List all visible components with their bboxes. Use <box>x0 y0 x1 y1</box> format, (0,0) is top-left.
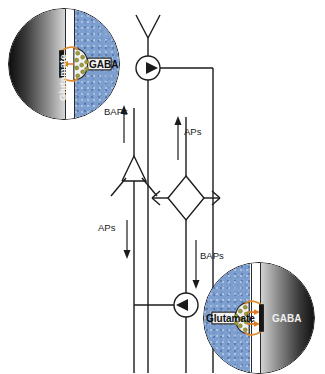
pyramidal-neuron-soma <box>122 156 146 181</box>
inset-disc-bottom-right: Glutamate GABA <box>203 262 315 374</box>
inset-label-gaba-bottom: GABA <box>272 313 301 324</box>
label-aps-left: APs <box>98 222 115 233</box>
inset-label-glutamate-bottom: Glutamate <box>206 313 255 324</box>
label-baps-bottom: BAPs <box>200 250 224 261</box>
interneuron-top-dendrite <box>136 15 160 56</box>
postsynaptic-density-bottom <box>259 304 264 332</box>
arrow-aps-left <box>124 220 131 259</box>
inset-label-gaba-top: GABA <box>89 59 118 70</box>
synapse-inset-top-left: Glutamate GABA <box>8 8 120 120</box>
inset-label-glutamate-top: Glutamate <box>57 55 68 101</box>
pyramidal-basal-dendrite-left <box>111 178 126 196</box>
pyramidal-basal-dendrite-right <box>142 178 157 196</box>
arrow-baps-bottom <box>193 240 200 289</box>
label-aps-right: APs <box>184 126 201 137</box>
arrow-aps-right <box>175 116 182 160</box>
stellate-neuron-soma <box>168 176 204 220</box>
stellate-dendrite-right <box>204 191 220 205</box>
synapse-inset-bottom-right: Glutamate GABA <box>203 262 315 374</box>
inset-disc-top-left: Glutamate GABA <box>8 8 120 120</box>
